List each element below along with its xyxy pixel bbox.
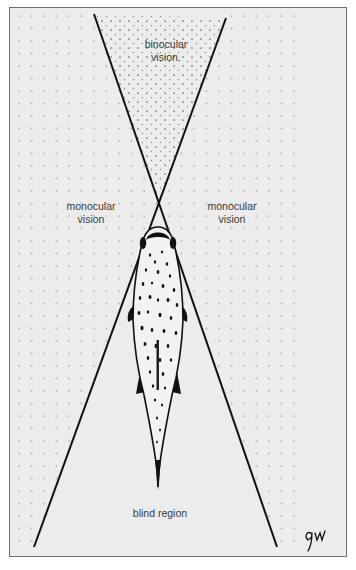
label-line: binocular [133,38,199,51]
signature-gw [306,531,325,551]
label-line: vision [56,213,126,226]
label-line: vision. [133,51,199,64]
label-monocular-vision-right: monocular vision [197,200,267,226]
vision-diagram [0,0,356,570]
label-blind-region: blind region [120,507,200,520]
label-binocular-vision: binocular vision. [133,38,199,64]
label-line: monocular [197,200,267,213]
fish-icon [128,227,188,490]
label-line: monocular [56,200,126,213]
label-monocular-vision-left: monocular vision [56,200,126,226]
label-line: vision [197,213,267,226]
